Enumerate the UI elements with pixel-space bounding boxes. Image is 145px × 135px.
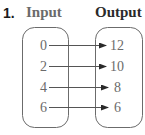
input-value: 0 [40,39,47,53]
output-value: 6 [114,101,121,115]
output-value: 12 [110,39,124,53]
output-value: 8 [114,81,121,95]
input-value: 6 [40,101,47,115]
input-value: 2 [40,60,47,74]
output-value: 10 [110,60,124,74]
input-value: 4 [40,81,47,95]
